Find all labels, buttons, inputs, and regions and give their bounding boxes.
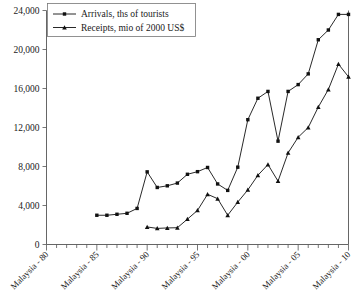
data-point	[105, 214, 108, 217]
data-series-1	[95, 13, 350, 217]
y-axis-tick-label: 8,000	[18, 162, 40, 172]
data-series-group	[95, 13, 351, 231]
tourism-line-chart: 04,0008,00012,00016,00020,00024,000 Mala…	[0, 0, 358, 308]
data-point	[276, 179, 281, 183]
y-axis-tick-label: 24,000	[13, 6, 39, 16]
data-point	[317, 38, 320, 41]
data-point	[336, 62, 341, 66]
data-point	[276, 139, 279, 142]
data-point	[135, 207, 138, 210]
data-point	[266, 162, 271, 166]
y-axis-tick-label: 0	[35, 240, 40, 250]
y-axis-tick-label: 4,000	[18, 201, 40, 211]
data-point	[286, 151, 291, 155]
data-point	[145, 170, 148, 173]
y-axis-tick-label: 16,000	[13, 84, 39, 94]
y-axis-tick-label: 20,000	[13, 45, 39, 55]
y-axis-tick-labels: 04,0008,00012,00016,00020,00024,000	[13, 6, 39, 250]
data-point	[115, 213, 118, 216]
data-point	[206, 166, 209, 169]
data-point	[215, 196, 220, 200]
data-point	[307, 72, 310, 75]
data-point	[316, 105, 321, 109]
data-series-2	[145, 62, 351, 231]
data-point	[176, 181, 179, 184]
x-axis-tick-label: Malaysia - 05	[260, 249, 302, 291]
x-axis-tick-label: Malaysia - 95	[159, 249, 201, 291]
data-point	[236, 165, 239, 168]
x-axis-tick-label: Malaysia - 00	[210, 249, 252, 291]
data-point	[156, 186, 159, 189]
data-point	[327, 28, 330, 31]
data-point	[226, 189, 229, 192]
data-point	[296, 83, 299, 86]
legend-swatch-marker	[63, 12, 66, 15]
data-point	[256, 97, 259, 100]
chart-canvas: 04,0008,00012,00016,00020,00024,000 Mala…	[0, 0, 358, 308]
series-line-2	[147, 64, 348, 228]
data-point	[166, 184, 169, 187]
data-point	[337, 13, 340, 16]
legend-item-label: Arrivals, ths of tourists	[81, 9, 169, 19]
x-axis-tick-label: Malaysia - 85	[59, 249, 101, 291]
data-point	[246, 118, 249, 121]
data-point	[196, 170, 199, 173]
series-line-1	[97, 14, 349, 215]
data-point	[186, 173, 189, 176]
x-axis-tick-label: Malaysia - 10	[310, 249, 352, 291]
data-point	[195, 208, 200, 212]
data-point	[306, 125, 311, 129]
data-point	[95, 214, 98, 217]
data-point	[125, 212, 128, 215]
x-axis-tick-label: Malaysia - 90	[109, 249, 151, 291]
data-point	[286, 90, 289, 93]
data-point	[216, 182, 219, 185]
y-axis-tick-label: 12,000	[13, 123, 39, 133]
y-axis-ticks	[43, 11, 47, 245]
data-point	[266, 90, 269, 93]
legend-item-label: Receipts, mio of 2000 US$	[81, 23, 184, 33]
x-axis-tick-labels: Malaysia - 80Malaysia - 85Malaysia - 90M…	[8, 249, 352, 291]
data-point	[347, 13, 350, 16]
data-point	[326, 87, 331, 91]
data-point	[205, 192, 210, 196]
x-axis-tick-label: Malaysia - 80	[8, 249, 50, 291]
x-axis-ticks	[47, 245, 349, 251]
chart-legend: Arrivals, ths of touristsReceipts, mio o…	[48, 4, 196, 37]
